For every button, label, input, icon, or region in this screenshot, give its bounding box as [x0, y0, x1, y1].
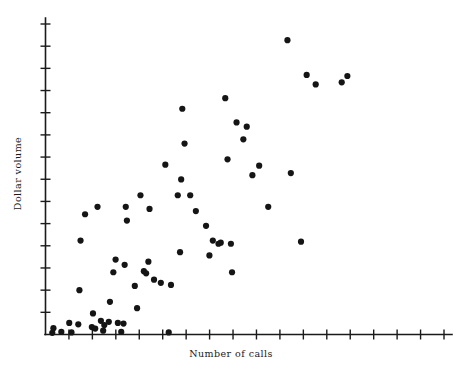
x-axis-title-text: Number of calls [189, 348, 273, 359]
data-point [256, 163, 262, 169]
data-point [120, 320, 126, 326]
data-point [151, 277, 157, 283]
data-point [106, 319, 112, 325]
data-point [134, 305, 140, 311]
data-point [158, 280, 164, 286]
data-point [210, 238, 216, 244]
data-point [68, 329, 74, 335]
data-point [123, 204, 129, 210]
data-point [122, 262, 128, 268]
data-point [146, 206, 152, 212]
data-point [181, 140, 187, 146]
data-point [265, 204, 271, 210]
x-axis-title: Number of calls [0, 348, 462, 359]
data-point [175, 192, 181, 198]
data-point [298, 239, 304, 245]
data-point [100, 328, 106, 334]
data-point [288, 170, 294, 176]
data-point [229, 269, 235, 275]
data-point [90, 310, 96, 316]
data-point [218, 240, 224, 246]
data-point [344, 73, 350, 79]
y-axis-title-text: Dollar volume [12, 137, 23, 210]
axes-group [45, 18, 452, 335]
data-point [228, 241, 234, 247]
data-point [110, 269, 116, 275]
scatter-plot-figure: Dollar volume Number of calls [0, 0, 462, 365]
data-point [124, 217, 130, 223]
data-point [187, 192, 193, 198]
data-point [112, 257, 118, 263]
data-point [222, 95, 228, 101]
data-point [137, 192, 143, 198]
data-point [304, 72, 310, 78]
data-point [118, 329, 124, 335]
data-point [166, 329, 172, 335]
data-point [162, 162, 168, 168]
data-point [107, 299, 113, 305]
data-point [82, 211, 88, 217]
data-point [233, 119, 239, 125]
data-point [224, 156, 230, 162]
data-point [284, 37, 290, 43]
data-point [203, 223, 209, 229]
data-point [66, 320, 72, 326]
data-point [168, 282, 174, 288]
data-point [76, 287, 82, 293]
data-point [339, 79, 345, 85]
data-point [92, 325, 98, 331]
data-point [77, 238, 83, 244]
data-point [313, 81, 319, 87]
data-point [240, 136, 246, 142]
data-point [177, 249, 183, 255]
data-point [115, 320, 121, 326]
data-point [58, 329, 64, 335]
data-point [178, 176, 184, 182]
data-point [193, 208, 199, 214]
chart-canvas [0, 0, 462, 365]
data-point [206, 252, 212, 258]
data-point [49, 330, 55, 336]
data-point [249, 172, 255, 178]
data-points-group [49, 37, 350, 336]
data-point [244, 124, 250, 130]
data-point [94, 204, 100, 210]
data-point [145, 259, 151, 265]
data-point [143, 270, 149, 276]
data-point [132, 283, 138, 289]
data-point [179, 106, 185, 112]
data-point [75, 321, 81, 327]
y-axis-title: Dollar volume [12, 114, 23, 234]
